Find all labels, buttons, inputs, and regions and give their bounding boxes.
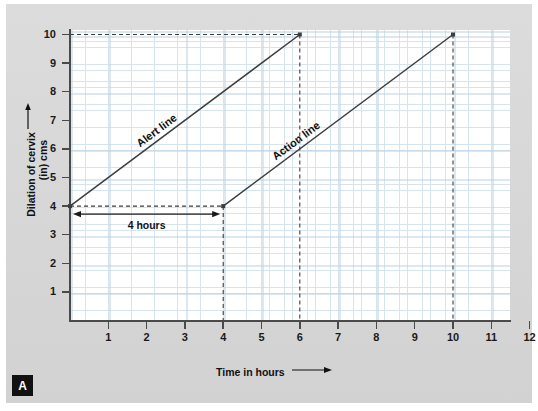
series-endpoint-marker xyxy=(68,204,72,208)
annotation-arrowhead-right xyxy=(212,211,220,217)
series-endpoint-marker xyxy=(221,204,225,208)
panel-letter-badge: A xyxy=(12,375,33,396)
figure-panel-a: 12345678910 123456789101112 Dilation of … xyxy=(0,0,538,411)
chart-overlay: Alert lineAction line 4 hours xyxy=(0,0,538,411)
annotation-label-four-hours: 4 hours xyxy=(128,219,166,231)
annotation-arrowhead-left xyxy=(73,211,81,217)
series-label-action-line: Action line xyxy=(270,119,322,162)
series-line-alert-line xyxy=(70,35,300,207)
series-endpoint-marker xyxy=(298,33,302,37)
annotations: 4 hours xyxy=(73,211,220,231)
series-endpoint-marker xyxy=(451,33,455,37)
series-lines: Alert lineAction line xyxy=(68,33,455,209)
series-line-action-line xyxy=(223,35,453,207)
